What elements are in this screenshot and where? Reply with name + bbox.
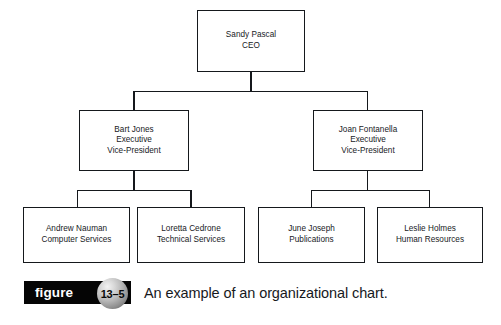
org-node-leaf-2-name: Loretta Cedrone (161, 224, 220, 235)
org-node-vp-right-name: Joan Fontanella (339, 125, 398, 136)
figure-number-text: 13–5 (101, 288, 125, 300)
org-node-vp-right-role1: Executive (350, 135, 386, 146)
connector-bus-to-leaf-2 (190, 190, 191, 208)
connector-bus-to-vp-right (367, 91, 368, 111)
connector-bus-to-leaf-1 (77, 190, 78, 208)
org-node-leaf-3-name: June Joseph (288, 224, 335, 235)
org-node-vp-left-role1: Executive (116, 135, 152, 146)
org-node-vp-left-name: Bart Jones (114, 125, 153, 136)
org-node-vp-right: Joan Fontanella Executive Vice-President (313, 110, 423, 171)
figure-caption: figure 13–5 An example of an organizatio… (24, 278, 484, 312)
connector-level2-right-bus (311, 190, 430, 191)
org-node-ceo-name: Sandy Pascal (226, 30, 276, 41)
org-node-leaf-2-role: Technical Services (157, 235, 225, 246)
org-node-leaf-3: June Joseph Publications (258, 207, 365, 263)
org-node-leaf-2: Loretta Cedrone Technical Services (137, 207, 245, 263)
org-node-leaf-3-role: Publications (289, 235, 333, 246)
connector-vp-right-drop (367, 171, 368, 190)
connector-ceo-drop (250, 72, 251, 91)
organizational-chart-figure: Sandy Pascal CEO Bart Jones Executive Vi… (0, 0, 501, 325)
connector-bus-to-leaf-3 (311, 190, 312, 208)
figure-number-badge: 13–5 (97, 278, 128, 309)
org-node-leaf-1-role: Computer Services (42, 235, 112, 246)
org-node-leaf-4-name: Leslie Holmes (404, 224, 456, 235)
connector-bus-to-leaf-4 (429, 190, 430, 208)
org-node-ceo-role: CEO (242, 41, 260, 52)
org-node-leaf-1: Andrew Nauman Computer Services (23, 207, 130, 263)
figure-caption-text: An example of an organizational chart. (144, 281, 388, 304)
org-node-vp-right-role2: Vice-President (341, 146, 394, 157)
connector-level1-bus (133, 91, 368, 92)
org-node-ceo: Sandy Pascal CEO (197, 10, 305, 72)
org-node-leaf-4-role: Human Resources (396, 235, 464, 246)
connector-level2-left-bus (77, 190, 192, 191)
org-node-leaf-4: Leslie Holmes Human Resources (377, 207, 483, 263)
org-node-vp-left-role2: Vice-President (107, 146, 160, 157)
connector-bus-to-vp-left (133, 91, 134, 111)
figure-label-text: figure (35, 285, 73, 300)
connector-vp-left-drop (133, 171, 134, 190)
org-node-leaf-1-name: Andrew Nauman (46, 224, 107, 235)
org-node-vp-left: Bart Jones Executive Vice-President (79, 110, 189, 171)
